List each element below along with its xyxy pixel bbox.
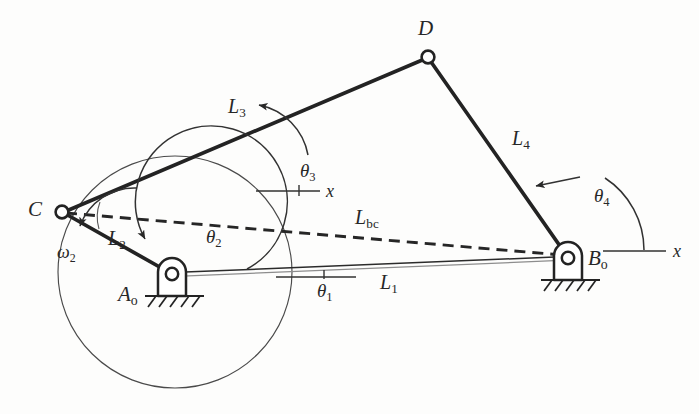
angle-label-theta4-sub: 4	[603, 195, 609, 209]
linkage-diagram-figure: C D Ao Bo L2 L3 L4 L1 Lbc θ1 θ2 θ3 θ4 ω2…	[0, 0, 699, 414]
link-Lbc-line	[66, 213, 562, 255]
velocity-label-omega2-base: ω	[57, 242, 70, 262]
velocity-label-omega2: ω2	[57, 243, 76, 265]
velocity-label-omega2-sub: 2	[70, 251, 76, 265]
link-label-L2: L2	[108, 228, 126, 251]
link-label-Lbc: Lbc	[355, 207, 379, 230]
angle-label-theta4: θ4	[594, 186, 610, 209]
link-label-L1-sub: 1	[391, 281, 398, 296]
angle-label-theta3-sub: 3	[309, 170, 315, 184]
link-label-L4-sub: 4	[523, 137, 530, 152]
angle-label-theta4-base: θ	[594, 185, 603, 206]
link-L3-line	[64, 58, 427, 212]
joint-C	[56, 206, 69, 219]
angle-label-theta3-base: θ	[300, 160, 309, 181]
theta4-leader-line	[536, 177, 580, 186]
link-L1-line	[172, 257, 566, 273]
point-label-C: C	[28, 199, 42, 220]
link-label-Lbc-base: L	[355, 206, 366, 228]
link-label-L3-sub: 3	[239, 105, 246, 120]
theta4-arc	[605, 178, 644, 250]
link-L4-line	[429, 59, 567, 256]
link-L1-line-inner	[176, 260, 566, 276]
pivot-A0-pin	[166, 268, 178, 280]
link-label-L4-base: L	[512, 127, 523, 149]
link-label-L2-sub: 2	[119, 237, 126, 252]
point-label-A0-base: A	[118, 282, 131, 306]
joint-D	[422, 51, 435, 64]
angle-label-theta2: θ2	[206, 227, 222, 250]
point-label-A0-sub: o	[131, 293, 138, 308]
point-label-B0-sub: o	[601, 257, 608, 272]
angle-label-theta2-base: θ	[206, 226, 215, 247]
link-label-L2-base: L	[108, 227, 119, 249]
point-label-B0: Bo	[588, 248, 608, 272]
point-label-B0-base: B	[588, 246, 601, 270]
pivot-A0-hatching	[148, 296, 200, 307]
angle-label-theta1-base: θ	[317, 280, 326, 301]
link-label-L1-base: L	[380, 271, 391, 293]
angle-label-theta2-sub: 2	[215, 236, 221, 250]
axis-label-x-theta3: x	[326, 182, 334, 200]
link-label-Lbc-sub: bc	[366, 216, 379, 231]
link-label-L3-base: L	[228, 95, 239, 117]
point-label-A0: Ao	[118, 284, 138, 308]
link-label-L3: L3	[228, 96, 246, 119]
angle-label-theta1: θ1	[317, 281, 333, 304]
joint-C-angle-arc	[97, 202, 100, 229]
point-label-D: D	[418, 18, 433, 39]
link-label-L4: L4	[512, 128, 530, 151]
pivot-B0-pin	[562, 252, 574, 264]
link-label-L1: L1	[380, 272, 398, 295]
pivot-B0-hatching	[544, 280, 596, 291]
angle-label-theta3: θ3	[300, 161, 316, 184]
axis-label-x-theta4: x	[673, 242, 681, 260]
angle-label-theta1-sub: 1	[326, 290, 332, 304]
